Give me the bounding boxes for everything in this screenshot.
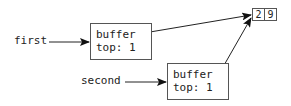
field-top: top: 1: [173, 81, 223, 94]
array-cell: 2: [253, 9, 264, 20]
variable-first: first: [14, 35, 47, 47]
field-top: top: 1: [96, 41, 146, 54]
field-buffer: buffer: [96, 28, 146, 41]
stack-object-first: buffer top: 1: [90, 23, 152, 60]
array-cell: 9: [264, 9, 276, 20]
stack-object-second: buffer top: 1: [167, 63, 229, 100]
variable-second: second: [81, 75, 121, 87]
buffer1-to-array-arrow: [144, 15, 251, 33]
shared-buffer-array: 2 9: [252, 8, 277, 21]
field-buffer: buffer: [173, 68, 223, 81]
